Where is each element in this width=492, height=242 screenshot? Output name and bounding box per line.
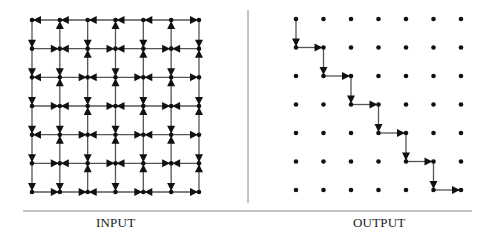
node-dot-icon [431, 159, 436, 164]
node-dot-icon [30, 46, 35, 51]
node-dot-icon [404, 74, 409, 79]
node-dot-icon [141, 190, 146, 195]
node-dot-icon [294, 159, 299, 164]
node-dot-icon [141, 18, 146, 23]
node-dot-icon [113, 75, 118, 80]
node-dot-icon [376, 131, 381, 136]
node-dot-icon [376, 188, 381, 193]
node-dot-icon [349, 17, 354, 22]
node-dot-icon [197, 104, 202, 109]
input-caption: INPUT [96, 216, 135, 230]
node-dot-icon [321, 188, 326, 193]
node-dot-icon [30, 161, 35, 166]
node-dot-icon [459, 74, 464, 79]
node-dot-icon [404, 17, 409, 22]
node-dot-icon [169, 104, 174, 109]
node-dot-icon [30, 75, 35, 80]
output-path-panel [292, 17, 463, 194]
node-dot-icon [349, 131, 354, 136]
node-dot-icon [197, 161, 202, 166]
node-dot-icon [404, 188, 409, 193]
node-dot-icon [349, 188, 354, 193]
grid-diagram [0, 0, 492, 242]
node-dot-icon [431, 131, 436, 136]
node-dot-icon [85, 104, 90, 109]
node-dot-icon [30, 132, 35, 137]
node-dot-icon [459, 45, 464, 50]
node-dot-icon [349, 45, 354, 50]
node-dot-icon [349, 102, 354, 107]
node-dot-icon [58, 161, 63, 166]
node-dot-icon [197, 132, 202, 137]
node-dot-icon [459, 188, 464, 193]
node-dot-icon [431, 74, 436, 79]
node-dot-icon [85, 46, 90, 51]
node-dot-icon [113, 104, 118, 109]
node-dot-icon [404, 102, 409, 107]
node-dot-icon [85, 190, 90, 195]
node-dot-icon [197, 190, 202, 195]
node-dot-icon [58, 75, 63, 80]
node-dot-icon [376, 159, 381, 164]
node-dot-icon [141, 161, 146, 166]
node-dot-icon [321, 102, 326, 107]
node-dot-icon [58, 132, 63, 137]
node-dot-icon [30, 18, 35, 23]
node-dot-icon [321, 131, 326, 136]
node-dot-icon [85, 161, 90, 166]
node-dot-icon [113, 161, 118, 166]
node-dot-icon [169, 190, 174, 195]
node-dot-icon [321, 159, 326, 164]
node-dot-icon [58, 18, 63, 23]
node-dot-icon [197, 46, 202, 51]
node-dot-icon [349, 159, 354, 164]
node-dot-icon [141, 75, 146, 80]
node-dot-icon [169, 132, 174, 137]
input-grid-panel [28, 16, 203, 196]
grid-nodes [294, 17, 464, 193]
node-dot-icon [197, 18, 202, 23]
node-dot-icon [294, 17, 299, 22]
node-dot-icon [294, 131, 299, 136]
node-dot-icon [85, 18, 90, 23]
node-dot-icon [294, 45, 299, 50]
node-dot-icon [294, 74, 299, 79]
node-dot-icon [169, 161, 174, 166]
node-dot-icon [431, 102, 436, 107]
node-dot-icon [85, 132, 90, 137]
node-dot-icon [113, 132, 118, 137]
node-dot-icon [169, 18, 174, 23]
node-dot-icon [459, 131, 464, 136]
node-dot-icon [141, 46, 146, 51]
node-dot-icon [459, 17, 464, 22]
node-dot-icon [376, 74, 381, 79]
node-dot-icon [30, 190, 35, 195]
node-dot-icon [431, 188, 436, 193]
node-dot-icon [404, 45, 409, 50]
node-dot-icon [321, 74, 326, 79]
node-dot-icon [169, 75, 174, 80]
node-dot-icon [431, 45, 436, 50]
alignment-path [292, 19, 461, 194]
node-dot-icon [349, 74, 354, 79]
node-dot-icon [113, 46, 118, 51]
node-dot-icon [58, 104, 63, 109]
node-dot-icon [30, 104, 35, 109]
node-dot-icon [113, 18, 118, 23]
node-dot-icon [431, 17, 436, 22]
node-dot-icon [376, 17, 381, 22]
node-dot-icon [404, 159, 409, 164]
node-dot-icon [376, 102, 381, 107]
node-dot-icon [169, 46, 174, 51]
node-dot-icon [459, 159, 464, 164]
node-dot-icon [58, 46, 63, 51]
node-dot-icon [321, 45, 326, 50]
output-caption: OUTPUT [353, 216, 405, 230]
node-dot-icon [321, 17, 326, 22]
node-dot-icon [113, 190, 118, 195]
node-dot-icon [376, 45, 381, 50]
node-dot-icon [294, 102, 299, 107]
node-dot-icon [58, 190, 63, 195]
node-dot-icon [459, 102, 464, 107]
node-dot-icon [141, 104, 146, 109]
